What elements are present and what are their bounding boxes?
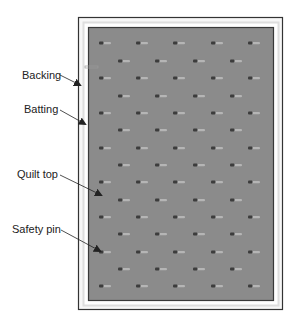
- label-safety-pin: Safety pin: [12, 223, 61, 235]
- label-batting: Batting: [24, 103, 58, 115]
- label-quilt-top: Quilt top: [17, 168, 58, 180]
- label-backing: Backing: [22, 69, 61, 81]
- quilt-diagram: [0, 0, 292, 317]
- quilt-top-layer: [89, 28, 274, 301]
- arrow-backing: [60, 75, 80, 85]
